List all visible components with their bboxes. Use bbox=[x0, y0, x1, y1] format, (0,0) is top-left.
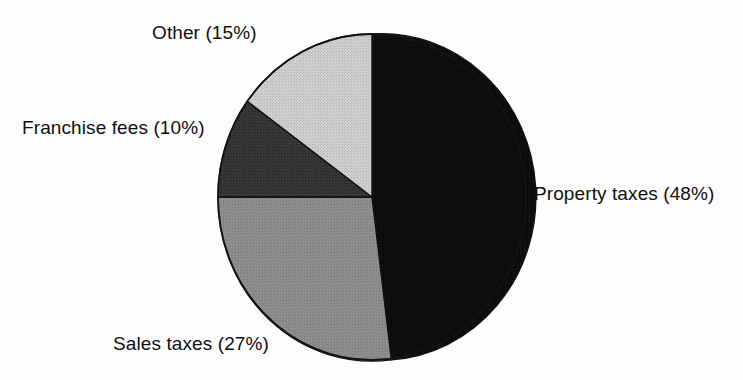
pie-chart-figure: Other (15%) Franchise fees (10%) Propert… bbox=[0, 0, 743, 380]
pie-label-franchise-fees: Franchise fees (10%) bbox=[22, 117, 205, 139]
pie-label-other: Other (15%) bbox=[152, 22, 257, 44]
pie-label-sales-taxes: Sales taxes (27%) bbox=[113, 333, 269, 355]
pie-label-property-taxes: Property taxes (48%) bbox=[534, 183, 714, 205]
pie-slice-property-taxes[interactable] bbox=[372, 34, 536, 360]
